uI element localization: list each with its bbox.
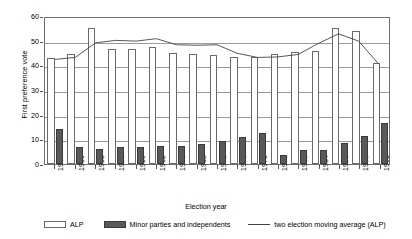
minor-dark-swatch — [104, 221, 126, 228]
x-tick-mark-1971 — [217, 165, 218, 169]
moving-average-line — [45, 18, 389, 164]
x-tick-mark-1988 — [339, 165, 340, 169]
y-tick-mark-60 — [40, 17, 43, 18]
y-tick-label-0: 0 — [13, 161, 39, 168]
y-tick-label-40: 40 — [13, 62, 39, 69]
legend-label-minor: Minor parties and independents — [130, 220, 231, 229]
x-tick-mark-1959 — [136, 165, 137, 169]
y-tick-mark-40 — [40, 66, 43, 67]
legend-item-minor: Minor parties and independents — [104, 220, 231, 229]
y-tick-mark-20 — [40, 116, 43, 117]
x-tick-mark-1984 — [319, 165, 320, 169]
y-tick-mark-50 — [40, 42, 43, 43]
x-tick-mark-1978 — [278, 165, 279, 169]
y-axis-title: First preference vote — [20, 15, 29, 155]
y-tick-label-50: 50 — [13, 38, 39, 45]
legend-item-alp: ALP — [44, 220, 84, 229]
legend-label-alp: ALP — [70, 220, 84, 229]
alp-white-swatch — [44, 221, 66, 228]
x-tick-mark-1956 — [115, 165, 116, 169]
legend-label-moving-average: two election moving average (ALP) — [274, 220, 385, 229]
y-tick-label-20: 20 — [13, 112, 39, 119]
y-tick-label-60: 60 — [13, 13, 39, 20]
x-tick-mark-1950 — [75, 165, 76, 169]
y-tick-mark-0 — [40, 165, 43, 166]
x-tick-mark-1991 — [359, 165, 360, 169]
y-tick-mark-30 — [40, 91, 43, 92]
moving-average-line-swatch — [248, 221, 270, 228]
x-tick-mark-1995 — [380, 165, 381, 169]
chart-legend: ALP Minor parties and independents two e… — [44, 216, 390, 232]
x-tick-mark-1981 — [298, 165, 299, 169]
x-tick-mark-1976 — [258, 165, 259, 169]
y-tick-mark-10 — [40, 140, 43, 141]
y-tick-label-10: 10 — [13, 136, 39, 143]
y-tick-label-30: 30 — [13, 87, 39, 94]
x-tick-mark-1965 — [176, 165, 177, 169]
x-axis-title: Election year — [0, 202, 412, 211]
x-tick-mark-1973 — [237, 165, 238, 169]
x-tick-mark-1968 — [197, 165, 198, 169]
first-preference-vote-chart: First preference vote 0102030405060 1947… — [0, 0, 412, 239]
x-tick-mark-1962 — [156, 165, 157, 169]
x-tick-mark-1953 — [95, 165, 96, 169]
x-tick-mark-1947 — [54, 165, 55, 169]
legend-item-moving-average: two election moving average (ALP) — [248, 220, 385, 229]
plot-area — [44, 17, 390, 165]
